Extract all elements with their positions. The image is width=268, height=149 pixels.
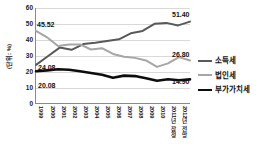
- x-axis-tick: 2005: [104, 106, 110, 118]
- legend-label: 소득세: [215, 57, 236, 65]
- y-axis-tick: 20: [26, 69, 33, 76]
- legend-swatch-icon: [198, 89, 212, 91]
- chart-legend: 소득세법인세부가가치세: [198, 57, 268, 94]
- data-label: 24.08: [38, 64, 56, 71]
- legend-item[interactable]: 부가가치세: [198, 86, 268, 94]
- x-axis-tick-labels: 1999200020012002200320042005200620072008…: [35, 106, 190, 149]
- series-line: [36, 69, 190, 81]
- y-axis-tick: 50: [26, 21, 33, 28]
- y-axis-tick: 40: [26, 37, 33, 44]
- y-axis-title: (단위: %): [4, 44, 13, 69]
- x-axis-tick: 2007: [126, 106, 132, 118]
- legend-swatch-icon: [198, 60, 212, 62]
- x-axis-tick: 2003: [82, 106, 88, 118]
- x-axis-tick: 2000: [49, 106, 55, 118]
- legend-item[interactable]: 법인세: [198, 72, 268, 80]
- chart-figure: 0102030405060 (단위: %) 45.5224.0820.0851.…: [0, 0, 268, 149]
- legend-label: 법인세: [215, 72, 236, 80]
- x-axis-tick: 2001: [60, 106, 66, 118]
- x-axis-tick: 2004: [93, 106, 99, 118]
- y-axis-tick: 30: [26, 53, 33, 60]
- x-axis-tick: 2010: [159, 106, 165, 118]
- legend-item[interactable]: 소득세: [198, 57, 268, 65]
- plot-area: [35, 8, 190, 104]
- x-axis-tick: 1999: [38, 106, 44, 118]
- data-label: 45.52: [37, 21, 55, 28]
- x-axis-tick: 2009: [148, 106, 154, 118]
- data-label: 20.08: [38, 82, 56, 89]
- x-axis-tick: 2012년 전망: [182, 106, 188, 138]
- y-axis-tick: 0: [29, 101, 33, 108]
- x-axis-tick: 2002: [71, 106, 77, 118]
- y-axis-tick: 10: [26, 85, 33, 92]
- x-axis-tick: 2006: [115, 106, 121, 118]
- y-axis-tick: 60: [26, 5, 33, 12]
- x-axis-tick: 2011년 잠정: [170, 106, 176, 138]
- data-label: 14.90: [172, 78, 190, 85]
- series-line: [36, 22, 190, 65]
- data-label: 51.40: [172, 11, 190, 18]
- series-lines: [36, 8, 190, 103]
- legend-label: 부가가치세: [215, 86, 250, 94]
- legend-swatch-icon: [198, 74, 212, 76]
- x-axis-tick: 2008: [137, 106, 143, 118]
- data-label: 26.80: [172, 51, 190, 58]
